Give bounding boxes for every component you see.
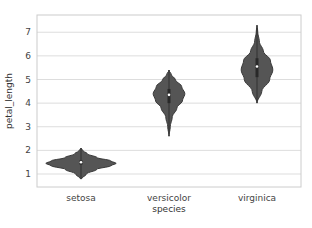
x-tick-label: setosa bbox=[66, 193, 95, 203]
violin-median-versicolor bbox=[168, 94, 171, 97]
x-tick-labels: setosaversicolorvirginica bbox=[66, 193, 276, 203]
x-tick-label: versicolor bbox=[147, 193, 191, 203]
y-tick-label: 4 bbox=[25, 98, 31, 108]
y-tick-label: 5 bbox=[25, 75, 31, 85]
x-axis-label: species bbox=[152, 204, 186, 214]
y-tick-label: 7 bbox=[25, 27, 31, 37]
x-tick-label: virginica bbox=[238, 193, 276, 203]
y-axis-label: petal_length bbox=[4, 73, 14, 129]
violin-median-setosa bbox=[80, 161, 83, 164]
y-tick-label: 2 bbox=[25, 145, 31, 155]
violin-chart: 1234567 setosaversicolorvirginica specie… bbox=[0, 0, 312, 228]
y-tick-label: 3 bbox=[25, 122, 31, 132]
violin-median-virginica bbox=[256, 65, 259, 68]
y-tick-label: 6 bbox=[25, 51, 31, 61]
y-tick-label: 1 bbox=[25, 169, 31, 179]
violins bbox=[46, 25, 273, 179]
y-tick-labels: 1234567 bbox=[25, 27, 31, 179]
